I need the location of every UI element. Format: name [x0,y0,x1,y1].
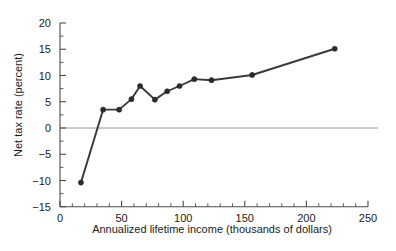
y-tick-label: −15 [32,201,51,213]
x-tick-label: 100 [174,212,192,224]
x-axis-title: Annualized lifetime income (thousands of… [92,223,332,235]
data-point-marker [332,46,337,51]
x-tick-label: 0 [57,212,63,224]
data-point-marker [209,78,214,83]
chart-figure: −15−10−505101520 050100150200250 Net tax… [0,0,396,251]
data-point-marker [177,83,182,88]
data-point-marker [250,72,255,77]
x-tick-label: 50 [115,212,127,224]
data-point-marker [78,180,83,185]
data-point-marker [165,89,170,94]
y-tick-label: 20 [39,17,51,29]
y-tick-label: 10 [39,70,51,82]
y-axis-title: Net tax rate (percent) [12,53,24,157]
net-tax-rate-line-chart: −15−10−505101520 050100150200250 Net tax… [0,0,396,251]
data-point-marker [137,83,142,88]
data-point-marker [101,107,106,112]
y-tick-label: 0 [45,122,51,134]
y-tick-label: −10 [32,175,51,187]
x-tick-label: 250 [359,212,377,224]
data-point-marker [129,97,134,102]
y-tick-label: −5 [38,148,51,160]
y-tick-label: 5 [45,96,51,108]
x-tick-label: 150 [236,212,254,224]
x-tick-label: 200 [297,212,315,224]
data-point-marker [152,97,157,102]
y-tick-label: 15 [39,43,51,55]
data-point-marker [192,77,197,82]
data-point-marker [117,107,122,112]
